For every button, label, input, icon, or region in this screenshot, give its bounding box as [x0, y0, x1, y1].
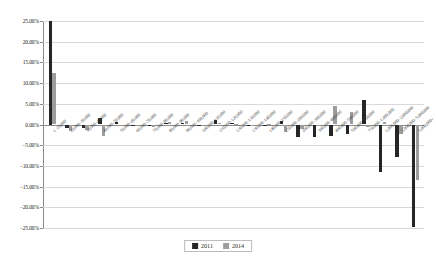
y-tick-label: −25.00% [20, 225, 39, 231]
y-tick-label: 20.00% [23, 39, 39, 45]
y-tick-label: 5.00% [25, 101, 39, 107]
bar-2011-16 [313, 125, 316, 137]
y-tick-mark [40, 187, 43, 188]
gridline [43, 228, 424, 229]
bar-2014-10 [218, 123, 221, 125]
y-tick-mark [40, 21, 43, 22]
bar-2014-0 [52, 73, 55, 124]
plot-area: 25.00%20.00%15.00%10.00%5.00%0.00%−5.00%… [43, 21, 424, 228]
y-tick-label: 0.00% [25, 122, 39, 128]
y-tick-label: −5.00% [22, 142, 39, 148]
legend-item-2014[interactable]: 2014 [223, 243, 244, 249]
legend-swatch-icon [192, 243, 198, 249]
y-tick-mark [40, 125, 43, 126]
bar-2014-22 [416, 125, 419, 180]
y-tick-mark [40, 42, 43, 43]
y-tick-label: 15.00% [23, 59, 39, 65]
bar-2014-8 [185, 121, 188, 125]
chart-page: 25.00%20.00%15.00%10.00%5.00%0.00%−5.00%… [0, 0, 436, 268]
y-tick-mark [40, 207, 43, 208]
y-tick-label: −20.00% [20, 204, 39, 210]
legend-item-2011[interactable]: 2011 [192, 243, 213, 249]
bar-2014-13 [267, 124, 270, 125]
legend-swatch-icon [223, 243, 229, 249]
y-tick-label: −15.00% [20, 184, 39, 190]
y-tick-label: 10.00% [23, 80, 39, 86]
bar-2014-11 [234, 124, 237, 125]
y-tick-mark [40, 145, 43, 146]
y-tick-label: 25.00% [23, 18, 39, 24]
y-tick-mark [40, 166, 43, 167]
bar-2011-20 [379, 125, 382, 172]
legend-label: 2011 [201, 243, 213, 249]
y-tick-label: −10.00% [20, 163, 39, 169]
bar-groups [44, 21, 424, 228]
bar-2011-17 [329, 125, 332, 136]
bar-2014-12 [251, 125, 254, 126]
chart-legend: 20112014 [184, 240, 252, 252]
legend-label: 2014 [232, 243, 244, 249]
bar-2014-7 [168, 122, 171, 124]
bar-2014-20 [383, 122, 386, 124]
y-tick-mark [40, 104, 43, 105]
y-tick-mark [40, 83, 43, 84]
y-tick-mark [40, 62, 43, 63]
y-tick-mark [40, 228, 43, 229]
